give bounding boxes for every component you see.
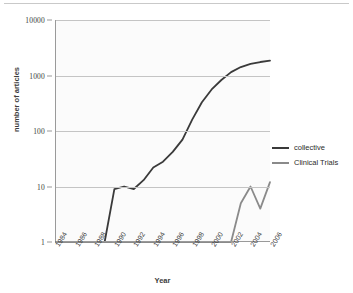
gridline (56, 76, 270, 77)
legend-item[interactable]: collective (272, 140, 352, 155)
y-tick-mark (47, 131, 52, 132)
x-axis-title: Year (55, 276, 270, 285)
x-tick-label: 2006 (269, 231, 283, 248)
legend-label: Clinical Trials (294, 158, 338, 167)
y-tick-mark (47, 75, 52, 76)
plot-area (55, 20, 270, 242)
legend-swatch-icon (272, 147, 289, 149)
chart-figure: number of articles 110100100010000 19841… (0, 0, 353, 293)
y-tick-mark (47, 242, 52, 243)
y-tick-label: 1 (41, 238, 45, 247)
gridline (56, 20, 270, 21)
y-tick-mark (47, 20, 52, 21)
y-tick-mark (47, 186, 52, 187)
y-tick-label: 1000 (29, 71, 45, 80)
legend-label: collective (294, 143, 325, 152)
y-tick-label: 10000 (25, 16, 45, 25)
y-axis-tick-labels: 110100100010000 (0, 20, 52, 242)
y-tick-label: 100 (33, 127, 45, 136)
x-axis-tick-labels: 1984198619881990199219941996199820002002… (55, 244, 270, 274)
gridline (56, 131, 270, 132)
legend-swatch-icon (272, 162, 289, 164)
legend-item[interactable]: Clinical Trials (272, 155, 352, 170)
chart-legend: collectiveClinical Trials (272, 140, 352, 170)
y-tick-label: 10 (37, 182, 45, 191)
gridline (56, 187, 270, 188)
